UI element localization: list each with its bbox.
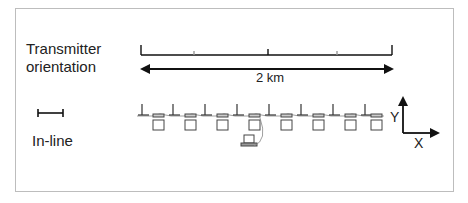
scale-bar [141, 45, 392, 55]
transmitters [138, 104, 372, 115]
inline-bar-icon [38, 109, 63, 117]
distance-arrow [140, 64, 394, 74]
xy-axes-icon [398, 96, 440, 138]
diagram-graphics [0, 0, 468, 203]
